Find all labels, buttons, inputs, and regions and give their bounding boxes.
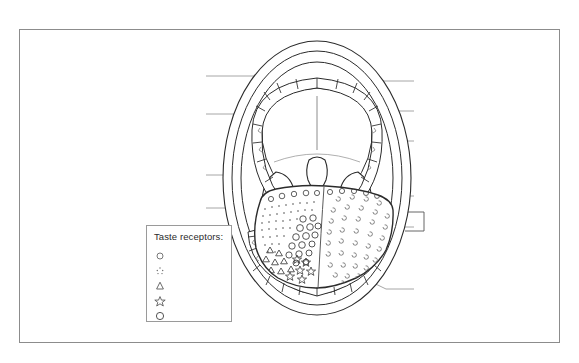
legend-item-star — [153, 293, 227, 308]
legend-item-stipple-dots — [153, 263, 227, 278]
legend-item-circle — [153, 308, 227, 323]
legend-rows — [153, 248, 227, 323]
worksheet-canvas: Taste receptors: — [0, 0, 579, 363]
star-icon — [153, 294, 169, 308]
triangle-icon — [153, 279, 169, 293]
circle-icon — [153, 309, 169, 323]
stipple-dots-icon — [153, 264, 169, 278]
taste-receptors-legend: Taste receptors: — [146, 225, 232, 322]
legend-item-triangle — [153, 278, 227, 293]
small-circle-icon — [153, 249, 169, 263]
mouth-anatomy-diagram — [0, 0, 579, 363]
legend-title: Taste receptors: — [154, 231, 223, 242]
legend-item-small-circle — [153, 248, 227, 263]
